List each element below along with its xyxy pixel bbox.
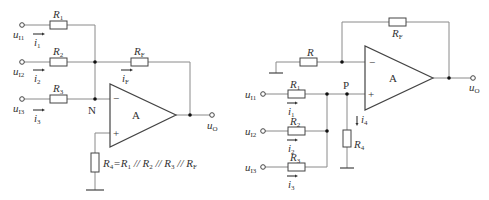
output-terminal [471,76,476,81]
label-uo: uO [469,81,480,95]
label-i3: i3 [34,112,41,126]
circuit-diagrams: − + A N R1 R2 R3 RF uI1 uI2 uI3 uO i1 i2… [0,0,489,200]
label-if: iF [122,72,129,86]
label-uo: uO [207,119,218,133]
r4-formula: R4=R1 // R2 // R3 // RF [102,157,197,171]
label-ui2: uI2 [13,65,25,79]
label-r1: R1 [289,78,301,92]
label-rf: RF [391,27,403,41]
label-r3: R3 [52,82,64,96]
opamp-label: A [389,72,397,84]
input-terminal-1 [261,92,266,97]
label-i1: i1 [288,105,295,119]
label-i2: i2 [288,142,295,156]
current-arrow-i4 [356,116,359,126]
plus-sign: + [113,127,119,139]
resistor-r [300,58,317,66]
node-label-n: N [88,104,96,116]
label-ui3: uI3 [245,161,257,175]
label-ui2: uI2 [245,125,257,139]
resistor-r1 [50,21,67,29]
input-terminal-3 [20,97,25,102]
output-terminal [210,113,215,118]
label-i2: i2 [34,72,41,86]
label-r1: R1 [52,8,64,22]
label-rf: RF [133,45,145,59]
label-ui1: uI1 [245,88,257,102]
resistor-r4 [91,153,99,172]
label-r: R [306,46,314,58]
minus-sign: − [369,56,375,68]
input-terminal-2 [20,60,25,65]
right-circuit: − + A P R RF R1 R2 R3 R4 uI1 uI2 uI3 uO … [245,18,480,192]
input-terminal-2 [261,129,266,134]
opamp-label: A [132,109,140,121]
label-ui1: uI1 [13,28,25,42]
resistor-r3 [50,95,67,103]
resistor-r2 [50,58,67,66]
resistor-r4 [343,130,351,147]
label-i3: i3 [288,178,295,192]
input-terminal-1 [20,23,25,28]
plus-sign: + [368,88,374,100]
node-label-p: P [343,79,349,91]
label-i1: i1 [34,36,41,50]
resistor-rf [389,18,406,26]
label-r4: R4 [353,138,365,152]
label-r2: R2 [52,45,64,59]
label-i4: i4 [361,113,368,127]
input-terminal-3 [261,165,266,170]
minus-sign: − [113,92,119,104]
label-ui3: uI3 [13,102,25,116]
left-circuit: − + A N R1 R2 R3 RF uI1 uI2 uI3 uO i1 i2… [13,8,218,190]
resistor-rf [131,58,148,66]
opamp-triangle [110,84,176,147]
